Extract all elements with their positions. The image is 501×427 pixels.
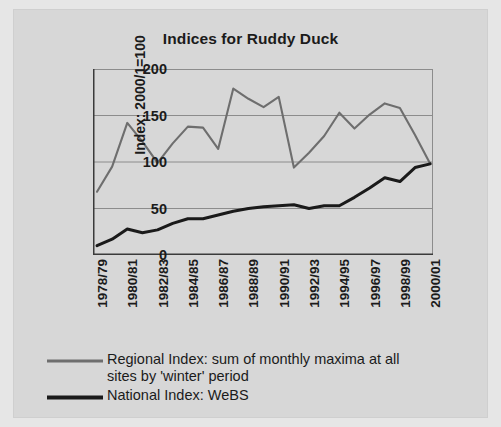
y-tick-label-100: 100 bbox=[143, 154, 167, 170]
x-tick-label-1996-97: 1996/97 bbox=[367, 259, 382, 308]
x-tick-label-1992-93: 1992/93 bbox=[307, 259, 322, 308]
y-tick-label-150: 150 bbox=[143, 108, 167, 124]
gray-line-swatch bbox=[47, 359, 103, 363]
x-tick-label-1990-91: 1990/91 bbox=[276, 259, 291, 308]
chart-legend: Regional Index: sum of monthly maxima at… bbox=[47, 350, 479, 406]
y-tick-label-200: 200 bbox=[143, 61, 167, 77]
legend-label-national: National Index: WeBS bbox=[107, 386, 249, 405]
y-axis-tick-labels: 050100150200 bbox=[93, 69, 173, 255]
plot-area: Index: 2000/1=100 050100150200 bbox=[93, 69, 433, 255]
x-axis-tick-labels: 1978/791980/811982/831984/851986/871988/… bbox=[93, 259, 438, 339]
x-tick-label-1986-87: 1986/87 bbox=[216, 259, 231, 308]
x-tick-label-1988-89: 1988/89 bbox=[246, 259, 261, 308]
x-tick-label-1994-95: 1994/95 bbox=[337, 259, 352, 308]
x-tick-label-2000-01: 2000/01 bbox=[428, 259, 443, 308]
y-tick-label-50: 50 bbox=[151, 201, 167, 217]
x-tick-label-1984-85: 1984/85 bbox=[185, 259, 200, 308]
x-tick-label-1978-79: 1978/79 bbox=[95, 259, 110, 308]
x-tick-label-1980-81: 1980/81 bbox=[125, 259, 140, 308]
x-tick-label-1982-83: 1982/83 bbox=[155, 259, 170, 308]
chart-title: Indices for Ruddy Duck bbox=[13, 30, 488, 48]
legend-item-national: National Index: WeBS bbox=[47, 386, 479, 405]
black-line-swatch bbox=[47, 395, 103, 400]
chart-canvas: Indices for Ruddy Duck Index: 2000/1=100… bbox=[13, 9, 488, 418]
x-tick-label-1998-99: 1998/99 bbox=[397, 259, 412, 308]
legend-label-regional-cont: sites by 'winter' period bbox=[107, 367, 479, 386]
chart-screenshot: Indices for Ruddy Duck Index: 2000/1=100… bbox=[0, 0, 501, 427]
